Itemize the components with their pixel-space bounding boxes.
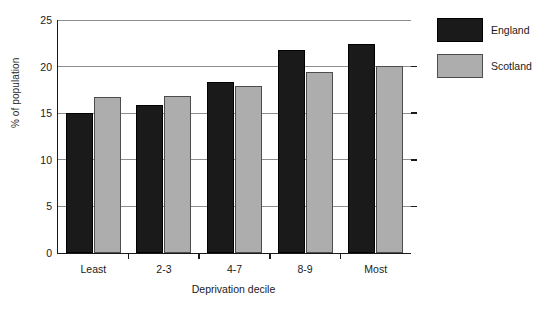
legend-label-scotland: Scotland: [491, 60, 532, 72]
bar-scotland-0: [94, 97, 121, 253]
bar-scotland-1: [164, 96, 191, 254]
x-axis-title: Deprivation decile: [57, 283, 410, 295]
y-axis-tick: [411, 206, 417, 208]
y-axis-tick: [411, 159, 417, 161]
legend-label-england: England: [491, 24, 530, 36]
y-tick-label: 20: [40, 61, 52, 73]
bar-england-1: [136, 105, 163, 253]
y-tick-label: 5: [46, 200, 52, 212]
y-axis-tick: [411, 112, 417, 114]
x-category-label-0: Least: [80, 263, 106, 275]
bar-scotland-3: [306, 72, 333, 253]
bar-england-3: [278, 50, 305, 253]
x-category-label-3: 8-9: [298, 263, 313, 275]
bar-england-4: [348, 44, 375, 253]
legend-swatch-scotland: [437, 54, 483, 78]
bar-scotland-2: [235, 86, 262, 253]
plot-area: 0510152025Least2-34-78-9Most: [57, 20, 411, 254]
bar-england-0: [66, 113, 93, 253]
legend-item-scotland: Scotland: [437, 54, 547, 78]
bar-scotland-4: [376, 66, 403, 253]
x-axis-tick: [340, 253, 342, 259]
gridline: [58, 20, 411, 21]
y-tick-label: 25: [40, 14, 52, 26]
x-axis-tick: [269, 253, 271, 259]
x-axis-tick: [198, 253, 200, 259]
chart-legend: England Scotland: [437, 18, 547, 90]
x-category-label-4: Most: [364, 263, 387, 275]
y-tick-label: 0: [46, 247, 52, 259]
x-category-label-1: 2-3: [156, 263, 171, 275]
legend-item-england: England: [437, 18, 547, 42]
y-tick-label: 10: [40, 154, 52, 166]
y-tick-label: 15: [40, 107, 52, 119]
x-category-label-2: 4-7: [227, 263, 242, 275]
bar-chart: % of population 0510152025Least2-34-78-9…: [0, 0, 549, 310]
x-axis-tick: [128, 253, 130, 259]
legend-swatch-england: [437, 18, 483, 42]
bar-england-2: [207, 82, 234, 253]
y-axis-title: % of population: [10, 38, 21, 128]
y-axis-tick: [411, 66, 417, 68]
